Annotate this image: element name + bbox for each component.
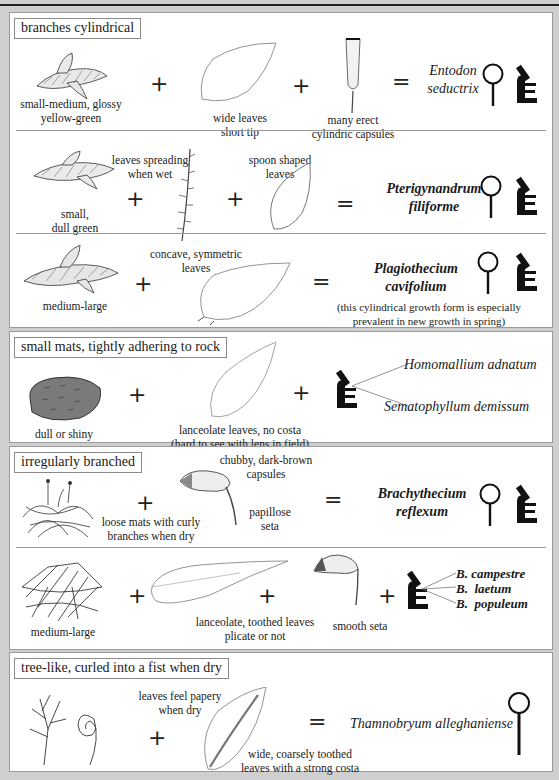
plant-caption: small,dull green xyxy=(40,207,110,235)
plus-sign: + xyxy=(128,585,146,607)
wide-leaf-illustration xyxy=(198,41,280,105)
microscope-icon xyxy=(515,63,537,103)
concave-leaf-illustration xyxy=(194,261,292,325)
plus-sign: + xyxy=(292,75,310,97)
plus-sign: + xyxy=(126,188,144,210)
tree-like-moss-illustration xyxy=(20,689,112,767)
feature-caption: smooth seta xyxy=(320,619,400,633)
plus-sign: + xyxy=(378,585,396,607)
cylindrical-moss-illustration xyxy=(22,245,120,295)
plus-sign: + xyxy=(148,727,166,749)
lanceolate-leaf-illustration xyxy=(206,342,278,420)
row-divider xyxy=(16,547,546,548)
plus-sign: + xyxy=(292,382,310,404)
species-name: Thamnobryum alleghaniense xyxy=(350,715,513,733)
equals-sign: = xyxy=(392,71,410,93)
plus-sign: + xyxy=(134,273,152,295)
row-divider xyxy=(16,130,546,131)
equals-sign: = xyxy=(336,193,354,215)
section-small-mats: small mats, tightly adhering to rock dul… xyxy=(9,331,553,443)
loose-mat-moss-illustration xyxy=(18,477,98,543)
species-name: Pterigynandrumfiliforme xyxy=(374,180,494,216)
section-title: irregularly branched xyxy=(14,452,142,473)
microscope-icon xyxy=(515,483,537,523)
species-name: Homomallium adnatum xyxy=(404,356,537,374)
microscope-icon xyxy=(515,251,537,291)
dense-moss-illustration xyxy=(18,557,104,623)
plant-caption: medium-large xyxy=(18,625,108,639)
hand-lens-icon xyxy=(479,483,501,527)
feature-caption: wide, coarsely toothedleaves with a stro… xyxy=(230,747,370,775)
section-title: branches cylindrical xyxy=(14,18,141,39)
species-name: Entodonseductrix xyxy=(418,62,488,98)
hand-lens-icon xyxy=(477,251,499,295)
plus-sign: + xyxy=(136,492,154,514)
plus-sign: + xyxy=(128,384,146,406)
equals-sign: = xyxy=(308,711,326,733)
spoon-leaf-illustration xyxy=(264,163,314,231)
microscope-icon xyxy=(515,175,537,215)
feature-caption: chubby, dark-browncapsules xyxy=(216,453,316,481)
species-name: B. populeum xyxy=(456,595,528,613)
note-text: (this cylindrical growth form is especia… xyxy=(324,300,534,328)
smooth-seta-capsule-illustration xyxy=(312,551,364,605)
hand-lens-icon xyxy=(480,175,502,219)
hand-lens-icon xyxy=(482,63,504,107)
section-title: tree-like, curled into a fist when dry xyxy=(14,658,229,679)
plus-sign: + xyxy=(226,188,244,210)
cylindrical-moss-illustration xyxy=(32,51,112,101)
top-rule xyxy=(0,4,559,6)
plant-caption: dull or shiny xyxy=(24,427,104,441)
plant-caption: medium-large xyxy=(30,299,120,313)
species-name: Sematophyllum demissum xyxy=(384,398,529,416)
section-tree-like: tree-like, curled into a fist when dry l… xyxy=(9,652,553,772)
pointer-lines xyxy=(420,567,458,607)
feature-caption: many erectcylindric capsules xyxy=(298,113,408,141)
plus-sign: + xyxy=(150,73,168,95)
species-name: Brachytheciumreflexum xyxy=(362,485,482,521)
species-name: Plagiotheciumcavifolium xyxy=(356,260,476,296)
equals-sign: = xyxy=(324,489,342,511)
section-irregularly-branched: irregularly branched + loose mats with c… xyxy=(9,446,553,650)
spreading-shoot-illustration xyxy=(174,147,202,243)
feature-caption: lanceolate, toothed leavesplicate or not xyxy=(180,615,330,643)
hand-lens-icon xyxy=(508,691,530,757)
plus-sign: + xyxy=(258,585,276,607)
mat-moss-illustration xyxy=(24,374,104,422)
equals-sign: = xyxy=(312,271,330,293)
plant-caption: small-medium, glossyyellow-green xyxy=(16,97,126,125)
section-branches-cylindrical: branches cylindrical small-medium, gloss… xyxy=(9,12,553,328)
cylindric-capsule-illustration xyxy=(343,37,363,113)
section-title: small mats, tightly adhering to rock xyxy=(14,337,227,358)
row-divider xyxy=(16,233,546,234)
feature-caption: papilloseseta xyxy=(240,505,300,533)
feature-caption: wide leavesshort tip xyxy=(190,111,290,139)
